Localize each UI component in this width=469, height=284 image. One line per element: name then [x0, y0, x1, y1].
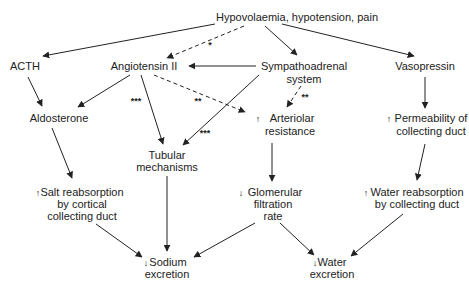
node-aldosterone-label: Aldosterone — [30, 112, 89, 124]
up-arrow-icon: ↑ — [256, 114, 261, 124]
node-arteriolar: ↑ Arteriolar resistance — [256, 112, 315, 137]
node-salt: ↑ Salt reabsorption by cortical collecti… — [36, 186, 124, 222]
node-sodium-line-2: excretion — [145, 268, 190, 280]
node-sodium-line-1: Sodium — [149, 256, 186, 268]
node-vasopressin-label: Vasopressin — [395, 60, 455, 72]
node-permeability-line-1: Permeability of — [395, 112, 469, 124]
edge-angiotensin-arteriolar — [154, 75, 245, 112]
node-tubular: Tubular mechanisms — [136, 149, 198, 173]
edge-label-angiotensin-arteriolar: ** — [194, 96, 202, 106]
edge-angiotensin-tubular — [141, 75, 163, 144]
node-arteriolar-line-2: resistance — [265, 125, 315, 137]
edge-label-sympathoadrenal-arteriolar: ** — [301, 92, 309, 102]
node-tubular-line-2: mechanisms — [136, 161, 198, 173]
node-salt-line-3: collecting duct — [47, 210, 117, 222]
nodes: Hypovolaemia, hypotension, pain ACTH Ang… — [10, 11, 468, 280]
node-gfr-line-3: rate — [264, 210, 283, 222]
edge-trigger-vasopressin — [282, 24, 414, 56]
edge-label-trigger-angiotensin: * — [208, 40, 212, 50]
down-arrow-icon: ↓ — [144, 258, 149, 268]
node-salt-line-1: Salt reabsorption — [40, 186, 123, 198]
node-vasopressin: Vasopressin — [395, 60, 455, 72]
node-sympathoadrenal: Sympathoadrenal system — [261, 60, 347, 85]
up-arrow-icon: ↑ — [364, 188, 369, 198]
node-permeability: ↑ Permeability of collecting duct — [387, 112, 469, 137]
edge-water-reabs-water-exc — [351, 214, 403, 256]
node-water-exc-line-2: excretion — [310, 268, 355, 280]
node-water-reabs-line-2: by collecting duct — [375, 198, 459, 210]
edges — [28, 24, 425, 257]
node-trigger-label: Hypovolaemia, hypotension, pain — [216, 11, 378, 23]
edge-label-sympathoadrenal-tubular: *** — [200, 128, 211, 138]
edge-sympathoadrenal-arteriolar — [287, 86, 301, 107]
node-sodium: ↓ Sodium excretion — [144, 256, 190, 280]
node-sympathoadrenal-line-1: Sympathoadrenal — [261, 60, 347, 72]
edge-trigger-sympathoadrenal — [265, 26, 297, 55]
node-aldosterone: Aldosterone — [30, 112, 89, 124]
node-permeability-line-2: collecting duct — [396, 125, 466, 137]
node-acth-label: ACTH — [10, 60, 40, 72]
node-arteriolar-line-1: Arteriolar — [270, 112, 315, 124]
node-gfr: ↓ Glomerular filtration rate — [239, 186, 303, 222]
node-acth: ACTH — [10, 60, 40, 72]
edge-sympathoadrenal-tubular — [183, 75, 259, 145]
node-angiotensin: Angiotensin II — [111, 60, 178, 72]
edge-angiotensin-aldosterone — [78, 75, 130, 107]
edge-aldosterone-salt — [52, 128, 72, 178]
edge-gfr-water-exc — [280, 223, 314, 255]
node-angiotensin-label: Angiotensin II — [111, 60, 178, 72]
edge-permeability-water-reabs — [417, 144, 425, 180]
edge-trigger-acth — [43, 24, 215, 56]
up-arrow-icon: ↑ — [387, 114, 392, 124]
node-tubular-line-1: Tubular — [149, 149, 186, 161]
node-trigger: Hypovolaemia, hypotension, pain — [216, 11, 378, 23]
node-water-exc: ↓ Water excretion — [310, 256, 355, 280]
node-water-reabs: ↑ Water reabsorption by collecting duct — [364, 186, 464, 210]
edge-acth-aldosterone — [28, 77, 42, 106]
renin-vasopressin-flow-diagram: * *** ** ** *** Hypovolaemia, hypotensio… — [0, 0, 469, 284]
node-gfr-line-1: Glomerular — [248, 186, 303, 198]
node-gfr-line-2: filtration — [254, 198, 293, 210]
node-salt-line-2: by cortical — [57, 198, 107, 210]
diagram-canvas: * *** ** ** *** Hypovolaemia, hypotensio… — [0, 0, 469, 284]
node-water-exc-line-1: Water — [318, 256, 347, 268]
edge-label-angiotensin-tubular: *** — [131, 96, 142, 106]
node-sympathoadrenal-line-2: system — [287, 73, 322, 85]
down-arrow-icon: ↓ — [239, 188, 244, 198]
edge-salt-sodium — [96, 224, 142, 257]
node-water-reabs-line-1: Water reabsorption — [370, 186, 463, 198]
edge-gfr-sodium — [194, 223, 255, 257]
